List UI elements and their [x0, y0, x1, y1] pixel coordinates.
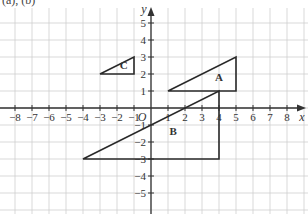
y-tick-label: 1 [141, 85, 147, 97]
y-tick-label: 2 [141, 68, 147, 80]
tick-labels: −8−7−6−5−4−3−2−112345678−5−4−3−2−112345x… [9, 2, 305, 199]
y-axis-arrow-icon [148, 7, 155, 16]
y-tick-label: 4 [141, 34, 147, 46]
x-tick-label: −5 [60, 111, 72, 123]
x-tick-label: −3 [94, 111, 106, 123]
x-tick-label: −6 [43, 111, 55, 123]
x-tick-label: 2 [182, 111, 188, 123]
y-tick-label: 3 [141, 51, 147, 63]
x-tick-label: 5 [233, 111, 239, 123]
x-tick-label: −7 [26, 111, 38, 123]
x-tick-label: −2 [111, 111, 123, 123]
triangle-label-c: C [120, 59, 128, 71]
y-tick-label: 5 [141, 17, 147, 29]
y-axis-label: y [140, 2, 147, 16]
y-tick-label: −5 [134, 187, 146, 199]
x-axis-label: x [298, 110, 305, 124]
y-tick-label: −4 [134, 170, 146, 182]
x-tick-label: −8 [9, 111, 21, 123]
triangle-label-b: B [169, 125, 177, 137]
triangle-label-a: A [215, 71, 223, 83]
y-tick-label: −2 [134, 136, 146, 148]
coordinate-grid: −8−7−6−5−4−3−2−112345678−5−4−3−2−112345x… [0, 0, 308, 214]
x-tick-label: 8 [284, 111, 290, 123]
x-tick-label: 6 [250, 111, 256, 123]
origin-label: O [138, 110, 147, 124]
x-tick-label: 3 [199, 111, 205, 123]
x-tick-label: 7 [267, 111, 273, 123]
x-tick-label: −4 [77, 111, 89, 123]
